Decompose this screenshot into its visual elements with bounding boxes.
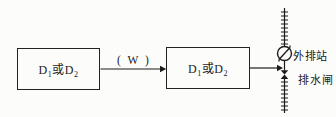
source-box-right: D1或D2 [166,47,250,89]
outfall-arrow [250,65,283,71]
pump-station-label: 外排站 [293,47,328,63]
sluice-gate-label: 排水闸 [298,71,334,87]
sluice-gate-icon [281,70,289,79]
flow-diagram: D1或D2 D1或D2 ( W ) 外排站 排水闸 [0,0,336,117]
flow-arrow [101,66,167,73]
pump-station-icon [278,46,292,62]
source-box-left-label: D1或D2 [39,60,79,78]
source-box-right-label: D1或D2 [188,59,228,77]
source-box-left: D1或D2 [17,48,100,90]
flow-arrow-label: ( W ) [110,54,158,66]
